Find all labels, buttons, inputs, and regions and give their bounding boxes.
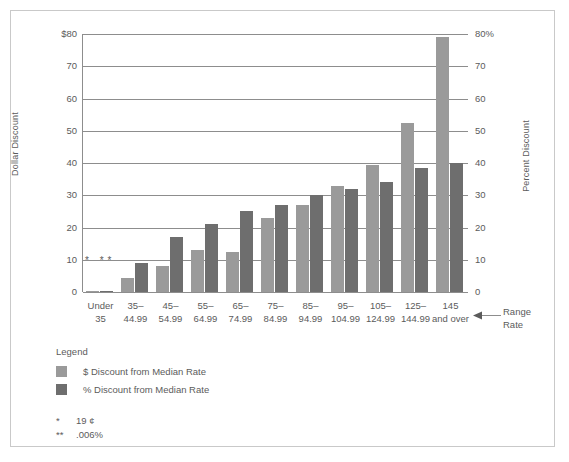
bar-group <box>363 34 398 292</box>
y-axis-left-tick: 60 <box>66 93 77 104</box>
bar-group <box>293 34 328 292</box>
bar-group <box>328 34 363 292</box>
x-axis-line <box>83 292 468 293</box>
legend-label: $ Discount from Median Rate <box>83 366 206 377</box>
bar-percent-discount <box>345 189 358 292</box>
footnote-text: .006% <box>76 428 103 442</box>
bar-dollar-discount <box>401 123 414 292</box>
bar-dollar-discount <box>366 165 379 292</box>
y-axis-left-tick: 10 <box>66 254 77 265</box>
bar-group: * ** <box>83 34 118 292</box>
y-axis-right-tick: 60 <box>475 93 486 104</box>
bar-dollar-discount <box>331 186 344 292</box>
y-axis-right-tick: 70 <box>475 60 486 71</box>
legend-item: $ Discount from Median Rate <box>56 366 356 377</box>
bar-percent-discount <box>310 195 323 292</box>
bar-dollar-discount <box>156 266 169 292</box>
y-axis-right-tick: 0 <box>475 286 480 297</box>
bar-dollar-discount <box>121 278 134 293</box>
bar-dollar-discount <box>261 218 274 292</box>
y-axis-right-tick: 30 <box>475 189 486 200</box>
y-axis-right-tick: 40 <box>475 157 486 168</box>
bar-percent-discount <box>135 263 148 292</box>
bar-dollar-discount <box>86 291 99 293</box>
bar-group <box>118 34 153 292</box>
chart-figure: Dollar Discount Percent Discount $807060… <box>10 10 555 447</box>
bar-dollar-discount <box>191 250 204 292</box>
footnote-mark: ** <box>56 428 76 442</box>
footnote: **.006% <box>56 428 103 442</box>
arrow-left-icon <box>473 311 501 320</box>
bar-dollar-discount <box>296 205 309 292</box>
legend: Legend $ Discount from Median Rate% Disc… <box>56 346 356 402</box>
bar-group <box>258 34 293 292</box>
bar-percent-discount <box>450 163 463 292</box>
y-axis-left-tick: 50 <box>66 125 77 136</box>
range-rate-line1: Range <box>503 305 531 318</box>
footnote: *19 ¢ <box>56 414 103 428</box>
y-axis-left-tick: 70 <box>66 60 77 71</box>
plot-area: $80706050403020100 80%706050403020100 * … <box>83 34 468 292</box>
y-axis-right-tick: 20 <box>475 222 486 233</box>
y-axis-left-tick: $80 <box>61 28 77 39</box>
bar-percent-discount <box>275 205 288 292</box>
bar-percent-discount <box>380 182 393 292</box>
legend-swatch <box>56 384 67 395</box>
asterisk-annotation: * ** <box>85 255 115 266</box>
bar-group <box>188 34 223 292</box>
legend-item: % Discount from Median Rate <box>56 384 356 395</box>
legend-title: Legend <box>56 346 356 357</box>
bar-percent-discount <box>205 224 218 292</box>
legend-items: $ Discount from Median Rate% Discount fr… <box>56 366 356 395</box>
x-axis-category-labels: Under3535–44.9945–54.9955–64.9965–74.997… <box>83 299 468 335</box>
bar-percent-discount <box>415 168 428 292</box>
bar-dollar-discount <box>226 252 239 292</box>
bar-percent-discount <box>240 211 253 292</box>
y-axis-left-tick: 40 <box>66 157 77 168</box>
bar-group <box>223 34 258 292</box>
bar-group <box>398 34 433 292</box>
bar-dollar-discount <box>436 37 449 292</box>
y-axis-left-title: Dollar Discount <box>10 112 20 176</box>
category-label-line: and over <box>423 312 479 325</box>
legend-label: % Discount from Median Rate <box>83 384 209 395</box>
y-axis-right-tick: 10 <box>475 254 486 265</box>
category-label-line: 145 <box>423 299 479 312</box>
bar-percent-discount <box>170 237 183 292</box>
y-axis-left-tick: 20 <box>66 222 77 233</box>
x-axis-category-label: 145and over <box>423 299 479 325</box>
y-axis-right-tick: 80% <box>475 28 494 39</box>
footnote-text: 19 ¢ <box>76 414 95 428</box>
y-axis-right-title: Percent Discount <box>521 120 531 192</box>
y-axis-left-tick: 0 <box>72 286 77 297</box>
bar-group <box>153 34 188 292</box>
legend-swatch <box>56 366 67 377</box>
footnote-mark: * <box>56 414 76 428</box>
range-rate-line2: Rate <box>503 318 531 331</box>
bar-percent-discount <box>100 291 113 293</box>
y-axis-right-tick: 50 <box>475 125 486 136</box>
y-axis-left-tick: 30 <box>66 189 77 200</box>
bar-group <box>433 34 468 292</box>
range-rate-label: Range Rate <box>503 305 531 331</box>
footnotes: *19 ¢**.006% <box>56 414 103 442</box>
